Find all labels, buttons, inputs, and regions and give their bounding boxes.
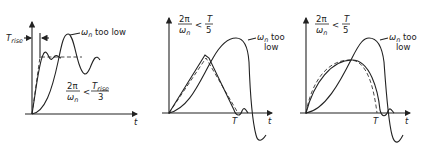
condition-formula: 2π ωn < T 5 bbox=[315, 14, 350, 37]
svg-text:2π: 2π bbox=[67, 81, 78, 91]
slow-response-curve bbox=[32, 34, 100, 114]
fast-response-curve bbox=[169, 55, 248, 115]
x-axis-label: t bbox=[134, 117, 138, 127]
panel-2: t T 2π ωn < T 5 ωn too low bbox=[162, 14, 285, 140]
svg-text:5: 5 bbox=[206, 25, 211, 35]
den: ωn bbox=[316, 25, 327, 37]
label-leader bbox=[380, 38, 388, 40]
svg-text:3: 3 bbox=[98, 92, 103, 102]
panel-3: t T 2π ωn < T 5 ωn too low bbox=[300, 14, 417, 142]
svg-text:2π: 2π bbox=[179, 14, 190, 24]
x-axis-label: t bbox=[268, 116, 272, 126]
condition-formula: 2π ωn < Trise 3 bbox=[66, 81, 109, 104]
fast-response-curve bbox=[32, 52, 61, 114]
condition-formula: 2π ωn < T 5 bbox=[178, 14, 213, 37]
svg-text:<: < bbox=[332, 20, 339, 30]
curve-label: ωn too low bbox=[81, 27, 126, 39]
ideal-triangle-dashed bbox=[169, 58, 238, 113]
figure-canvas: t Trise ωn too low 2π ωn < Trise 3 t T bbox=[0, 0, 422, 153]
den: ωn bbox=[179, 25, 190, 37]
svg-text:T: T bbox=[207, 14, 213, 24]
t-marker: T bbox=[232, 116, 238, 126]
svg-text:2π: 2π bbox=[316, 14, 327, 24]
curve-label-line2: low bbox=[396, 42, 411, 52]
t-marker: T bbox=[373, 116, 379, 126]
x-axis-label: t bbox=[405, 116, 409, 126]
den: ωn bbox=[67, 92, 78, 104]
label-leader bbox=[248, 38, 256, 40]
svg-text:<: < bbox=[83, 87, 90, 97]
svg-text:<: < bbox=[195, 20, 202, 30]
curve-label-line2: low bbox=[264, 42, 279, 52]
panel-1: t Trise ωn too low 2π ωn < Trise 3 bbox=[6, 22, 138, 127]
t-rise-label: Trise bbox=[6, 33, 23, 45]
slow-response-curve bbox=[306, 38, 403, 142]
label-leader bbox=[70, 33, 80, 35]
svg-text:5: 5 bbox=[343, 25, 348, 35]
svg-text:T: T bbox=[344, 14, 350, 24]
